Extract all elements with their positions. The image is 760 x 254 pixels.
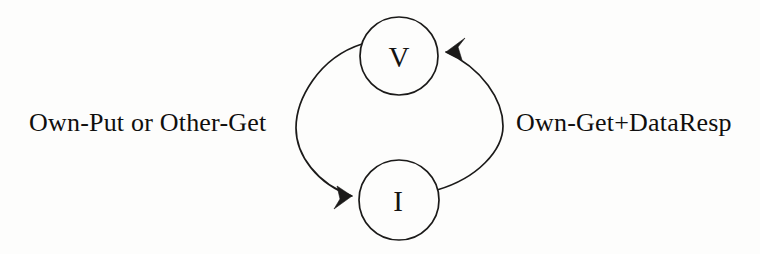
state-label-valid: V	[389, 41, 410, 73]
edge-invalid-to-valid	[437, 52, 503, 190]
diagram-canvas: V I Own-Put or Other-Get Own-Get+DataRes…	[0, 0, 760, 254]
state-label-invalid: I	[393, 185, 403, 217]
arrowhead-into-valid-icon	[446, 38, 465, 60]
edge-label-invalid-to-valid: Own-Get+DataResp	[516, 108, 732, 138]
edge-label-valid-to-invalid: Own-Put or Other-Get	[29, 108, 266, 138]
edge-valid-to-invalid	[296, 44, 362, 196]
